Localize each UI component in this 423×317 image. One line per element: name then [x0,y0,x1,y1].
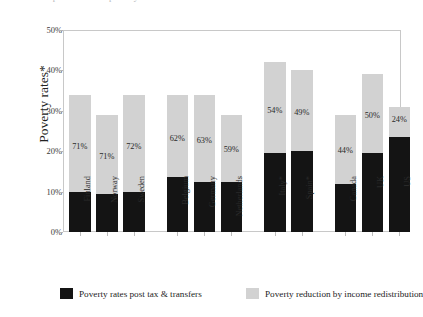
legend-item[interactable]: Poverty reduction by income redistributi… [246,288,423,299]
x-axis-label: Sweden [137,176,146,238]
x-tick-mark [134,232,135,236]
x-axis-label: Canada [349,176,358,238]
y-tick-mark [59,232,63,233]
y-tick-label: 0% [0,227,62,237]
x-axis-label: US [403,176,412,238]
y-tick-label: 50% [0,25,62,35]
x-tick-mark [107,232,108,236]
bar-value-label: 71% [60,142,100,151]
legend-label: Poverty reduction by income redistributi… [265,289,423,299]
x-tick-mark [231,232,232,236]
x-axis-label: Spain* [305,176,314,238]
x-tick-mark [399,232,400,236]
legend-item[interactable]: Poverty rates post tax & transfers [60,288,202,299]
x-tick-mark [302,232,303,236]
x-axis-label: Belgium [181,176,190,238]
bar-value-label: 24% [379,115,419,124]
y-tick-label: 30% [0,106,62,116]
chart-legend: Poverty rates post tax & transfersPovert… [60,288,416,306]
bar-value-label: 49% [282,108,322,117]
x-axis-label: Netherlands [235,176,244,238]
x-tick-mark [345,232,346,236]
bar-value-label: 59% [211,145,251,154]
x-tick-mark [275,232,276,236]
bar-value-label: 72% [114,142,154,151]
x-axis-label: Norway [110,176,119,238]
x-axis-label: Germany [208,176,217,238]
y-axis-title: Poverty rates* [36,24,52,184]
x-tick-mark [204,232,205,236]
x-tick-mark [372,232,373,236]
legend-label: Poverty rates post tax & transfers [79,289,202,299]
y-tick-label: 10% [0,187,62,197]
x-axis-label: Finland [83,176,92,238]
bar-value-label: 71% [87,152,127,161]
bar-value-label: 44% [325,146,365,155]
x-axis-label: UK [376,176,385,238]
y-tick-label: 20% [0,146,62,156]
x-axis-label: Italy* [278,176,287,238]
legend-swatch-grey [246,288,259,299]
y-tick-label: 40% [0,65,62,75]
legend-swatch-black [60,288,73,299]
x-tick-mark [177,232,178,236]
x-tick-mark [80,232,81,236]
